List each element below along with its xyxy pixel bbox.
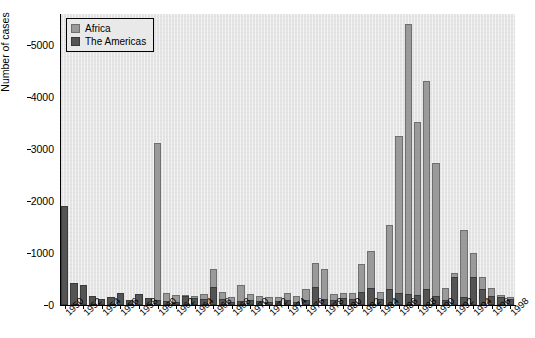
y-tick-label: 4000 bbox=[31, 91, 54, 103]
legend-swatch-icon bbox=[71, 37, 80, 46]
y-tick-label: 0 bbox=[48, 299, 54, 311]
bar-africa bbox=[154, 143, 161, 305]
y-tick-mark bbox=[27, 253, 31, 254]
y-tick-mark bbox=[27, 97, 31, 98]
y-axis-line bbox=[60, 14, 61, 305]
bar-africa bbox=[405, 24, 412, 305]
y-tick-mark bbox=[27, 201, 31, 202]
y-tick-label: 5000 bbox=[31, 39, 54, 51]
y-axis-title: Number of cases bbox=[0, 0, 11, 112]
legend-item-africa: Africa bbox=[71, 22, 146, 35]
y-tick-mark bbox=[44, 305, 48, 306]
y-tick-label: 3000 bbox=[31, 143, 54, 155]
bar-africa bbox=[414, 122, 421, 305]
bar-africa bbox=[423, 81, 430, 305]
y-tick-mark bbox=[27, 45, 31, 46]
y-tick-mark bbox=[27, 149, 31, 150]
y-tick-label: 2000 bbox=[31, 195, 54, 207]
bar-africa bbox=[460, 230, 467, 305]
legend-label: The Americas bbox=[85, 36, 146, 47]
bar-africa bbox=[395, 136, 402, 305]
bar-africa bbox=[432, 163, 439, 305]
legend-label: Africa bbox=[85, 23, 111, 34]
plot-area bbox=[60, 14, 515, 305]
bar-americas bbox=[61, 206, 68, 305]
legend-swatch-icon bbox=[71, 24, 80, 33]
legend-item-the-americas: The Americas bbox=[71, 35, 146, 48]
chart-legend: Africa The Americas bbox=[66, 18, 154, 52]
bar-chart: Number of cases 010002000300040005000 19… bbox=[0, 0, 535, 338]
y-tick-label: 1000 bbox=[31, 247, 54, 259]
